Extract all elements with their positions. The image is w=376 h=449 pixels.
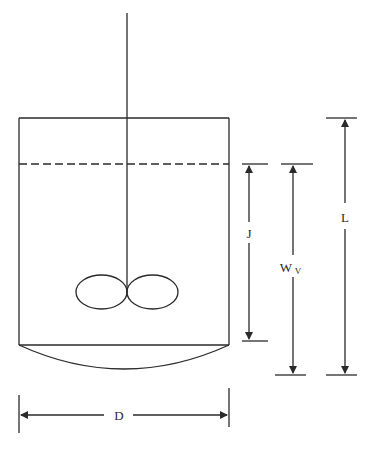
label-D: D	[114, 408, 123, 423]
dimension-L: L	[326, 118, 357, 375]
dimension-D: D	[19, 388, 229, 433]
impeller-blade-right	[127, 275, 178, 309]
label-Wv-subscript: V	[295, 266, 302, 276]
dimension-Wv: W V	[275, 164, 313, 375]
label-Wv: W	[280, 260, 293, 275]
dimension-J: J	[242, 164, 268, 341]
impeller-blade-left	[76, 275, 127, 309]
vessel-diagram: J W V L D	[0, 0, 376, 449]
vessel	[19, 118, 229, 369]
label-L: L	[341, 210, 349, 225]
label-J: J	[246, 226, 251, 241]
dished-bottom	[19, 345, 229, 369]
